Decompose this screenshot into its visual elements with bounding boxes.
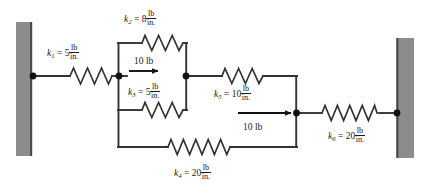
k4-unit: lbin. xyxy=(201,164,210,182)
node-left-wall xyxy=(30,73,37,80)
k6-subscript: 6 xyxy=(332,135,335,142)
k3-equals: = xyxy=(138,87,143,97)
k4-subscript: 4 xyxy=(178,172,181,179)
k5-unit: lbin. xyxy=(241,85,250,103)
spring-label-k5: k5 = 10lbin. xyxy=(214,85,251,103)
k6-equals: = xyxy=(338,131,343,141)
force-label-right: 10 lb xyxy=(243,123,262,133)
k1-equals: = xyxy=(57,48,62,58)
k4-equals: = xyxy=(184,168,189,178)
k2-subscript: 2 xyxy=(128,18,131,25)
k6-value: 20 xyxy=(346,131,356,141)
spring-k6-coil xyxy=(322,106,380,121)
spring-label-k4: k4 = 20lbin. xyxy=(174,164,211,182)
k3-unit: lbin. xyxy=(150,83,159,101)
right-wall xyxy=(396,38,414,158)
left-wall xyxy=(16,22,32,156)
k5-value: 10 xyxy=(232,89,242,99)
spring-k2-coil xyxy=(142,36,183,51)
node-junction-b xyxy=(183,73,190,80)
spring-label-k6: k6 = 20lbin. xyxy=(328,127,365,145)
spring-label-k3: k3 = 5lbin. xyxy=(128,83,160,101)
spring-label-k2: k2 = 8lbin. xyxy=(124,10,156,28)
k2-equals: = xyxy=(134,14,139,24)
node-junction-c xyxy=(293,110,300,117)
spring-k3-coil xyxy=(142,103,183,118)
spring-system-diagram: k1 = 5lbin. k2 = 8lbin. k3 = 5lbin. k4 =… xyxy=(0,0,429,195)
k5-equals: = xyxy=(224,89,229,99)
spring-k1-coil xyxy=(70,68,112,84)
spring-k5-coil xyxy=(222,69,263,84)
k6-unit: lbin. xyxy=(355,127,364,145)
k1-subscript: 1 xyxy=(51,52,54,59)
k3-subscript: 3 xyxy=(132,91,135,98)
k4-value: 20 xyxy=(192,168,202,178)
k1-unit: lbin. xyxy=(69,44,78,62)
force-label-left: 10 lb xyxy=(134,57,153,67)
spring-label-k1: k1 = 5lbin. xyxy=(47,44,79,62)
k5-subscript: 5 xyxy=(218,93,221,100)
spring-k4-coil xyxy=(168,140,230,155)
node-right-wall xyxy=(394,110,401,117)
k2-unit: lbin. xyxy=(146,10,155,28)
node-junction-a xyxy=(116,73,123,80)
